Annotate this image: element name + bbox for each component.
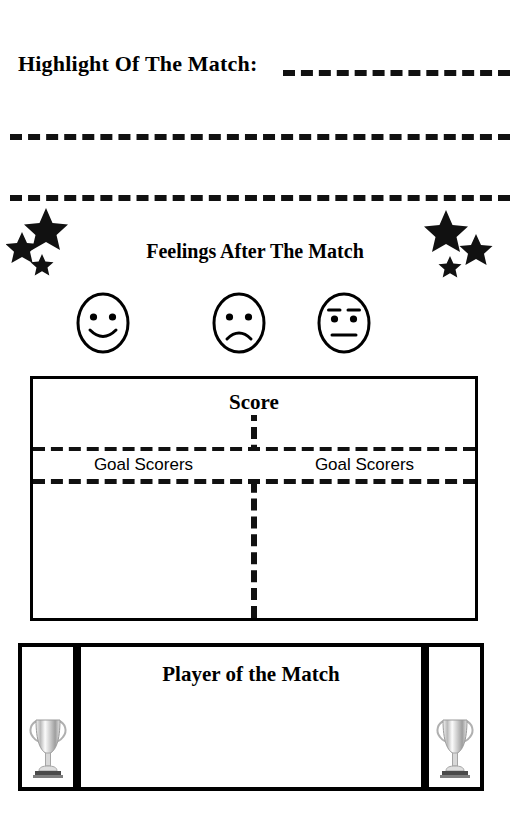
goal-scorers-heading-away: Goal Scorers (254, 451, 475, 479)
highlight-writing-line-2[interactable] (10, 134, 510, 140)
goal-scorers-heading-row: Goal Scorers Goal Scorers (33, 451, 475, 479)
player-of-the-match-box[interactable]: Player of the Match (77, 643, 425, 791)
happy-face-icon[interactable] (72, 292, 134, 354)
feelings-after-the-match-title: Feelings After The Match (0, 238, 510, 264)
player-of-the-match-title: Player of the Match (81, 661, 421, 687)
goal-scorers-heading-home: Goal Scorers (33, 451, 254, 479)
player-of-the-match-section: Player of the Match (18, 643, 484, 791)
score-team-divider (251, 409, 257, 618)
sad-face-icon[interactable] (208, 292, 270, 354)
trophy-box-right (425, 643, 484, 791)
highlight-writing-line-3[interactable] (10, 195, 510, 201)
trophy-box-left (18, 643, 77, 791)
worksheet-page: Highlight Of The Match: Feelings After T… (0, 0, 510, 830)
trophy-icon-right (432, 709, 478, 781)
neutral-face-icon[interactable] (313, 292, 375, 354)
trophy-icon-left (25, 709, 71, 781)
score-table: Score Goal Scorers Goal Scorers (30, 376, 478, 621)
feelings-faces-row (0, 292, 510, 356)
highlight-writing-line-1[interactable] (283, 70, 510, 76)
highlight-of-the-match-title: Highlight Of The Match: (18, 50, 257, 78)
